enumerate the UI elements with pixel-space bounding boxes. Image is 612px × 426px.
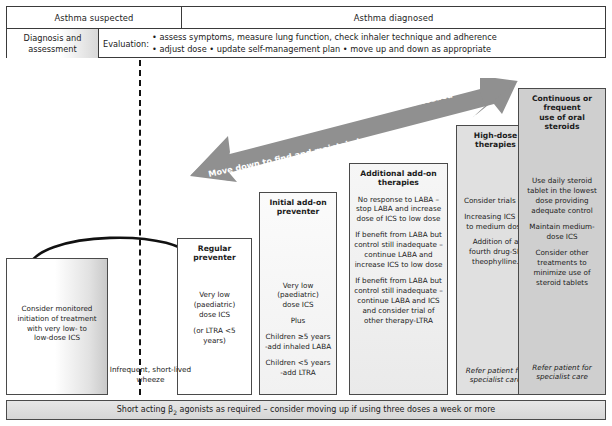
- initial-para-3: Children ≥5 years -add inhaled LABA: [264, 332, 332, 352]
- assessment-line-2: assessment: [28, 44, 77, 55]
- wheeze-line-1: Infrequent, short-lived: [110, 365, 191, 374]
- oral-steroids-refer-note: Refer patient for specialist care: [519, 363, 605, 382]
- regular-para-1: Very low (paediatric) dose ICS: [182, 290, 247, 320]
- additional-therapies-title: Additional add-on therapies: [357, 169, 439, 188]
- consider-line-3: with very low- to: [27, 324, 87, 333]
- oral-para-1: Use daily steroid tablet in the lowest d…: [523, 176, 601, 216]
- initial-para-4: Children <5 years -add LTRA: [264, 358, 332, 378]
- oral-para-2: Maintain medium-dose ICS: [523, 222, 601, 242]
- infrequent-wheeze-note: Infrequent, short-lived wheeze: [98, 365, 203, 385]
- initial-add-on-title: Initial add-on preventer: [260, 198, 336, 217]
- oral-para-3: Consider other treatments to minimize us…: [523, 248, 601, 288]
- header-cell-asthma-suspected: Asthma suspected: [7, 7, 182, 28]
- regular-preventer-title: Regular preventer: [178, 244, 251, 263]
- evaluation-line-2: • adjust dose • update self-management p…: [152, 44, 491, 54]
- bottom-text-before: Short acting β: [117, 405, 173, 414]
- header-cell-evaluation: Evaluation: • assess symptoms, measure l…: [99, 29, 605, 58]
- consider-body: Consider monitored initiation of treatme…: [7, 304, 107, 350]
- asthma-suspected-label: Asthma suspected: [54, 13, 133, 23]
- additional-para-1: No response to LABA – stop LABA and incr…: [354, 195, 443, 225]
- consider-line-1: Consider monitored: [22, 304, 93, 313]
- evaluation-bullets: • assess symptoms, measure lung function…: [152, 32, 497, 55]
- header-row-diagnosis: Asthma suspected Asthma diagnosed: [7, 7, 605, 29]
- oral-steroids-title: Continuous or frequent use of oral stero…: [519, 94, 605, 131]
- evaluation-line-1: • assess symptoms, measure lung function…: [152, 32, 497, 42]
- wheeze-line-2: wheeze: [137, 375, 165, 384]
- bottom-text-after: agonists as required – consider moving u…: [177, 405, 495, 414]
- initial-para-1: Very low (paediatric) dose ICS: [264, 281, 332, 311]
- consider-line-4: low-dose ICS: [34, 333, 80, 342]
- additional-para-3: If benefit from LABA but control still i…: [354, 276, 443, 326]
- header-cell-diagnosis-assessment: Diagnosis and assessment: [7, 29, 99, 58]
- consider-text: Consider monitored initiation of treatme…: [11, 304, 103, 344]
- asthma-diagnosed-label: Asthma diagnosed: [354, 13, 434, 23]
- oral-steroids-body: Use daily steroid tablet in the lowest d…: [519, 176, 605, 293]
- regular-para-2: (or LTRA <5 years): [182, 326, 247, 346]
- header-row-assessment: Diagnosis and assessment Evaluation: • a…: [7, 29, 605, 58]
- regular-preventer-body: Very low (paediatric) dose ICS (or LTRA …: [178, 290, 251, 352]
- initial-para-2: Plus: [264, 316, 332, 326]
- consider-line-2: initiation of treatment: [17, 314, 96, 323]
- header-table: Asthma suspected Asthma diagnosed Diagno…: [6, 6, 606, 58]
- asthma-management-diagram: Asthma suspected Asthma diagnosed Diagno…: [0, 0, 612, 426]
- step-box-initial-add-on-preventer[interactable]: Initial add-on preventer Very low (paedi…: [259, 192, 337, 395]
- initial-add-on-body: Very low (paediatric) dose ICS Plus Chil…: [260, 281, 336, 385]
- header-cell-asthma-diagnosed: Asthma diagnosed: [182, 7, 605, 28]
- additional-para-2: If benefit from LABA but control still i…: [354, 230, 443, 270]
- step-box-additional-add-on-therapies[interactable]: Additional add-on therapies No response …: [349, 163, 448, 395]
- step-box-consider-monitored-initiation[interactable]: Consider monitored initiation of treatme…: [6, 258, 108, 395]
- evaluation-label: Evaluation:: [103, 39, 152, 49]
- assessment-line-1: Diagnosis and: [24, 33, 82, 44]
- bottom-bar-text: Short acting β2 agonists as required – c…: [117, 405, 496, 416]
- short-acting-beta2-agonist-bar: Short acting β2 agonists as required – c…: [6, 400, 606, 420]
- step-box-oral-steroids[interactable]: Continuous or frequent use of oral stero…: [518, 88, 606, 395]
- additional-therapies-body: No response to LABA – stop LABA and incr…: [350, 195, 447, 332]
